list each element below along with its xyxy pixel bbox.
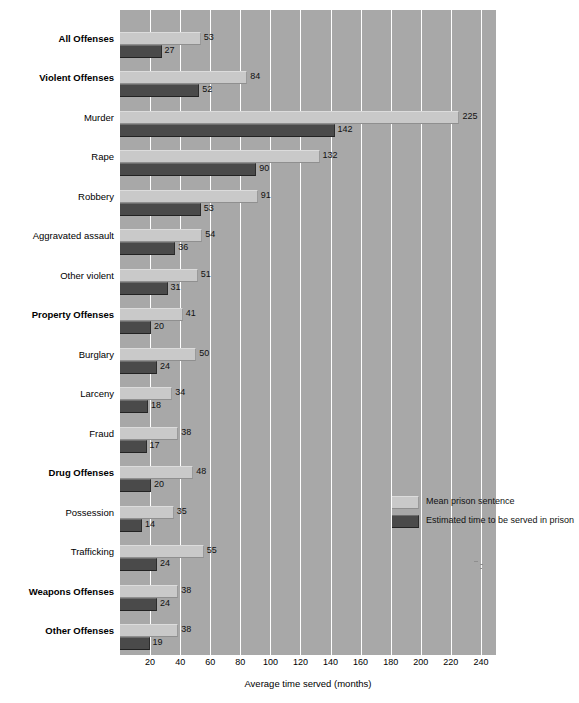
category-label: Robbery: [0, 191, 114, 202]
bar-group: 3418: [120, 387, 496, 413]
bar-value-mean: 51: [201, 269, 211, 280]
x-axis-label: Average time served (months): [120, 678, 496, 689]
bar-time-served: [120, 598, 157, 611]
bar-value-served: 20: [154, 321, 164, 332]
plot-area: 5327845222514213290915354365131412050243…: [120, 10, 496, 655]
category-label: Weapons Offenses: [0, 586, 114, 597]
bar-value-mean: 91: [261, 190, 271, 201]
bar-mean-sentence: [120, 427, 178, 440]
bar-time-served: [120, 282, 168, 295]
x-tick-label: 140: [323, 657, 338, 667]
bar-value-mean: 41: [186, 308, 196, 319]
bar-value-mean: 48: [196, 466, 206, 477]
x-tick-label: 240: [473, 657, 488, 667]
bar-time-served: [120, 242, 175, 255]
chart-legend: Mean prison sentence Estimated time to b…: [392, 495, 579, 533]
bar-group: 5436: [120, 229, 496, 255]
bar-mean-sentence: [120, 387, 172, 400]
bar-mean-sentence: [120, 32, 201, 45]
bar-value-mean: 38: [181, 427, 191, 438]
bar-time-served: [120, 163, 256, 176]
category-label: Other violent: [0, 270, 114, 281]
x-tick-label: 100: [263, 657, 278, 667]
artifact-speck-3: [480, 568, 482, 569]
bar-group: 3819: [120, 624, 496, 650]
bar-time-served: [120, 519, 142, 532]
bar-group: 5131: [120, 269, 496, 295]
category-label: Burglary: [0, 349, 114, 360]
bar-time-served: [120, 558, 157, 571]
bar-time-served: [120, 84, 199, 97]
legend-item-mean-prison-sentence: Mean prison sentence: [392, 495, 579, 509]
artifact-speck-2: [480, 564, 483, 565]
bar-time-served: [120, 321, 151, 334]
bar-mean-sentence: [120, 150, 320, 163]
bar-group: 5327: [120, 32, 496, 58]
bar-value-served: 52: [202, 84, 212, 95]
bar-value-served: 14: [145, 519, 155, 530]
bar-value-mean: 225: [462, 111, 477, 122]
bar-mean-sentence: [120, 545, 204, 558]
bar-value-mean: 38: [181, 624, 191, 635]
bar-value-mean: 38: [181, 585, 191, 596]
bar-mean-sentence: [120, 190, 258, 203]
bar-group: 225142: [120, 111, 496, 137]
category-label: Aggravated assault: [0, 230, 114, 241]
x-tick-label: 120: [293, 657, 308, 667]
x-axis-ticks: 20406080100120140160180200220240: [120, 657, 496, 671]
bar-mean-sentence: [120, 348, 196, 361]
bar-time-served: [120, 124, 335, 137]
bar-group: 8452: [120, 71, 496, 97]
category-label: Trafficking: [0, 546, 114, 557]
category-label: Fraud: [0, 428, 114, 439]
bar-group: 5524: [120, 545, 496, 571]
category-label: Larceny: [0, 388, 114, 399]
bar-mean-sentence: [120, 466, 193, 479]
bar-time-served: [120, 361, 157, 374]
bar-value-served: 90: [259, 163, 269, 174]
bar-mean-sentence: [120, 585, 178, 598]
bar-time-served: [120, 637, 150, 650]
bar-value-served: 24: [160, 361, 170, 372]
bar-value-served: 142: [338, 124, 353, 135]
bar-time-served: [120, 203, 201, 216]
bar-mean-sentence: [120, 624, 178, 637]
bar-value-served: 18: [151, 400, 161, 411]
bar-mean-sentence: [120, 506, 174, 519]
x-tick-label: 40: [175, 657, 185, 667]
bar-value-served: 17: [150, 440, 160, 451]
bar-group: 4820: [120, 466, 496, 492]
legend-swatch-served: [392, 515, 419, 528]
category-label: Possession: [0, 507, 114, 518]
legend-label-mean: Mean prison sentence: [426, 496, 515, 507]
bar-value-mean: 132: [323, 150, 338, 161]
category-label: Violent Offenses: [0, 72, 114, 83]
x-tick-label: 60: [205, 657, 215, 667]
artifact-speck-1: [474, 561, 478, 562]
x-tick-label: 20: [145, 657, 155, 667]
bar-value-served: 24: [160, 598, 170, 609]
x-tick-label: 200: [413, 657, 428, 667]
legend-item-estimated-time-served: Estimated time to be served in prison: [392, 514, 579, 528]
category-label: Other Offenses: [0, 625, 114, 636]
bar-group: 5024: [120, 348, 496, 374]
bar-group: 3824: [120, 585, 496, 611]
bar-time-served: [120, 45, 162, 58]
bar-time-served: [120, 440, 147, 453]
bar-time-served: [120, 479, 151, 492]
bar-time-served: [120, 400, 148, 413]
bar-value-mean: 55: [207, 545, 217, 556]
bar-value-mean: 34: [175, 387, 185, 398]
bar-value-served: 27: [165, 45, 175, 56]
category-label: Property Offenses: [0, 309, 114, 320]
bar-value-served: 24: [160, 558, 170, 569]
bar-value-served: 36: [178, 242, 188, 253]
bar-value-served: 20: [154, 479, 164, 490]
bar-value-mean: 53: [204, 32, 214, 43]
bar-mean-sentence: [120, 308, 183, 321]
bar-value-mean: 84: [250, 71, 260, 82]
x-tick-label: 180: [383, 657, 398, 667]
bar-value-mean: 50: [199, 348, 209, 359]
bar-mean-sentence: [120, 229, 202, 242]
